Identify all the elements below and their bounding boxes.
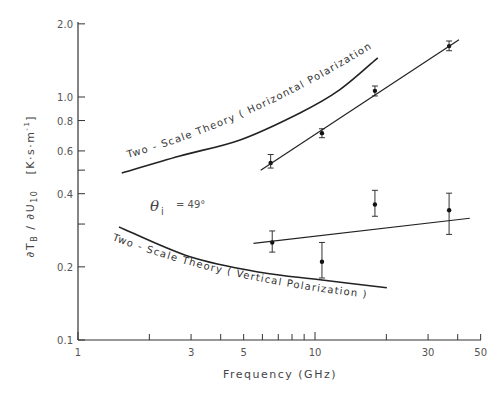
y-axis-label: ∂TB / ∂U10 [K·s·m-1] (23, 115, 39, 257)
data-point (446, 193, 452, 234)
marker (373, 202, 377, 206)
series-4 (269, 190, 452, 278)
fit-line (253, 218, 469, 243)
chart: 135103050 0.10.20.40.60.81.02.0 Frequenc… (0, 0, 504, 396)
marker (373, 89, 377, 93)
x-tick-label: 3 (188, 347, 194, 358)
x-ticks: 135103050 (75, 332, 487, 358)
marker (320, 260, 324, 264)
data-point (268, 154, 274, 168)
x-tick-label: 30 (422, 347, 435, 358)
incidence-angle-annotation: θ i = 49° (150, 197, 205, 217)
data-point (319, 242, 325, 278)
x-tick-label: 5 (240, 347, 246, 358)
y-tick-label: 1.0 (57, 92, 73, 103)
curve-label-horizontal: Two - Scale Theory ( Horizontal Polariza… (0, 0, 374, 160)
y-tick-label: 0.8 (57, 116, 73, 127)
y-tick-label: 0.6 (57, 146, 73, 157)
fit-line (261, 40, 459, 170)
marker (447, 208, 451, 212)
x-axis-label: Frequency (GHz) (223, 368, 337, 381)
x-tick-label: 10 (309, 347, 322, 358)
axes (78, 22, 481, 340)
svg-text:i: i (161, 206, 164, 217)
x-tick-label: 50 (474, 347, 487, 358)
series-5 (253, 218, 469, 243)
svg-text:∂TB / ∂U10 [K·s·m-1]: ∂TB / ∂U10 [K·s·m-1] (23, 115, 39, 257)
y-tick-label: 0.2 (57, 262, 73, 273)
marker (320, 131, 324, 135)
curve-label-vertical: Two - Scale Theory ( Vertical Polarizati… (110, 231, 368, 299)
y-tick-label: 0.1 (57, 335, 73, 346)
plot-area (119, 40, 470, 288)
svg-text:θ: θ (150, 197, 159, 215)
series-3 (261, 40, 459, 170)
y-tick-label: 2.0 (57, 19, 73, 30)
x-tick-label: 1 (75, 347, 81, 358)
y-tick-label: 0.4 (57, 189, 73, 200)
data-point (372, 190, 378, 216)
y-ticks: 0.10.20.40.60.81.02.0 (57, 19, 85, 346)
svg-text:= 49°: = 49° (176, 199, 205, 210)
